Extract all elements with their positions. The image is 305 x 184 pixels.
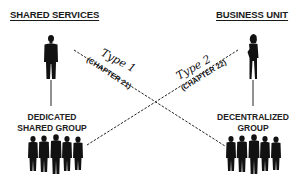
dedicated-shared-group-line1: DEDICATED	[10, 112, 94, 123]
woman-silhouette-icon	[248, 34, 259, 79]
right-group-silhouette-icon	[226, 134, 281, 174]
decentralized-group-line1: DECENTRALIZED	[209, 112, 297, 123]
dedicated-shared-group-line2: SHARED GROUP	[10, 123, 94, 134]
decentralized-group-label: DECENTRALIZED GROUP	[209, 112, 297, 134]
decentralized-group-line2: GROUP	[209, 123, 297, 134]
dedicated-shared-group-label: DEDICATED SHARED GROUP	[10, 112, 94, 134]
left-group-silhouette-icon	[28, 134, 83, 174]
diagram-canvas: Type 1 (CHAPTER 21) Type 2 (CHAPTER 22)	[0, 0, 305, 184]
man-silhouette-icon	[44, 35, 58, 79]
